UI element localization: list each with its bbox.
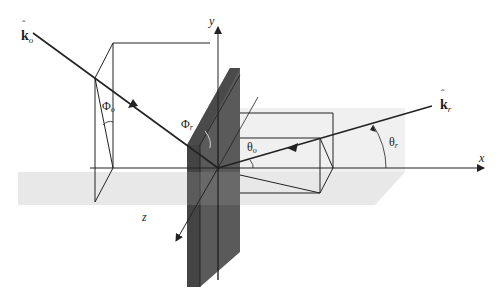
y-axis-label: y — [208, 14, 215, 28]
xz-plane-overlay — [187, 172, 240, 205]
plate-front — [187, 145, 200, 287]
incident-vector-label: ko — [21, 28, 34, 45]
scattered-vector-label: kr — [440, 97, 452, 114]
z-axis-label: z — [141, 210, 147, 224]
incident-ray — [33, 33, 218, 168]
scattering-diagram: ko ˆ kr ˆ Φo Φr θo θr x y z — [0, 0, 504, 302]
phi-r-label: Φr — [181, 117, 194, 132]
x-axis-label: x — [478, 151, 485, 165]
